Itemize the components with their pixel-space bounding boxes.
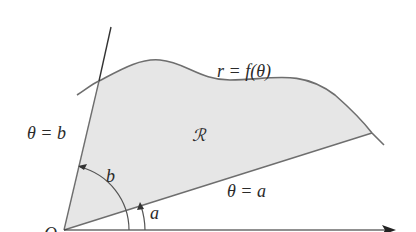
origin-label: O	[44, 224, 57, 232]
polar-region-diagram: r = f(θ) θ = b θ = a ℛ b a O	[0, 0, 416, 232]
ray-b-label: θ = b	[27, 123, 66, 143]
curve-label: r = f(θ)	[217, 61, 271, 82]
angle-a-label: a	[150, 203, 159, 223]
ray-theta-b-extension	[99, 27, 111, 81]
angle-a-arc	[141, 206, 145, 230]
region-r	[64, 60, 372, 230]
ray-a-label: θ = a	[227, 181, 266, 201]
arrowhead-icon	[382, 225, 396, 232]
region-label: ℛ	[192, 126, 207, 145]
angle-b-label: b	[106, 166, 115, 186]
